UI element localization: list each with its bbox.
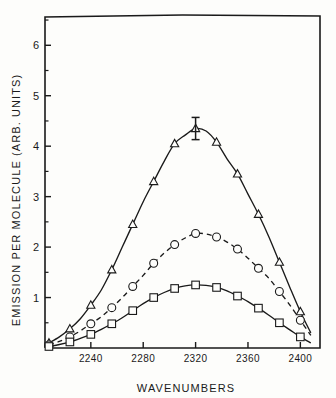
y-tick-label: 4	[33, 140, 39, 152]
circle-marker	[129, 282, 137, 290]
square-marker	[192, 281, 200, 289]
x-axis-ticks	[91, 342, 301, 348]
triangle-marker	[233, 170, 241, 177]
square-marker	[297, 333, 305, 341]
x-tick-label: 2280	[131, 353, 155, 364]
y-tick-label: 2	[33, 241, 39, 253]
triangle-marker	[150, 177, 158, 184]
triangle-series	[45, 124, 311, 346]
figure-panel: 123456 22402280232023602400 WAVENUMBERS …	[0, 0, 336, 398]
y-tick-label: 3	[33, 191, 39, 203]
circle-marker	[234, 245, 242, 253]
data-series-layer	[45, 124, 311, 350]
triangle-series-line	[49, 128, 311, 343]
square-marker	[213, 284, 221, 292]
y-tick-label: 1	[33, 292, 39, 304]
square-series	[45, 281, 311, 350]
circle-marker	[108, 304, 116, 312]
axis-frame-lines	[45, 15, 320, 348]
circle-marker	[192, 230, 200, 238]
circle-series-line	[49, 233, 311, 345]
circle-marker	[296, 316, 304, 324]
square-marker	[255, 304, 263, 312]
x-tick-label: 2240	[79, 353, 103, 364]
square-marker	[66, 338, 74, 346]
square-marker	[129, 307, 137, 315]
circle-marker	[150, 259, 158, 267]
square-marker	[150, 294, 158, 302]
circle-marker	[171, 241, 179, 249]
axes-frame	[45, 15, 320, 348]
y-axis-title: EMISSION PER MOLECULE (ARB. UNITS)	[10, 74, 22, 327]
y-axis-ticks	[45, 20, 51, 323]
square-marker	[276, 319, 284, 327]
x-tick-label: 2320	[184, 353, 208, 364]
square-marker	[45, 343, 53, 351]
circle-marker	[213, 233, 221, 241]
x-axis-title: WAVENUMBERS	[137, 382, 235, 394]
y-tick-label: 5	[33, 90, 39, 102]
triangle-marker	[254, 210, 262, 217]
circle-marker	[254, 264, 262, 272]
circle-marker	[275, 288, 283, 296]
triangle-marker	[108, 265, 116, 272]
y-axis-tick-labels: 123456	[33, 39, 39, 303]
circle-marker	[87, 320, 95, 328]
square-marker	[108, 320, 116, 328]
triangle-marker	[275, 258, 283, 265]
square-marker	[234, 292, 242, 300]
y-tick-label: 6	[33, 39, 39, 51]
x-tick-label: 2400	[288, 353, 312, 364]
square-marker	[87, 331, 95, 339]
triangle-marker	[296, 307, 304, 314]
triangle-marker	[129, 220, 137, 227]
x-tick-label: 2360	[236, 353, 260, 364]
chart-canvas: 123456 22402280232023602400 WAVENUMBERS …	[0, 0, 336, 398]
x-axis-tick-labels: 22402280232023602400	[79, 353, 312, 364]
square-marker	[171, 285, 179, 293]
